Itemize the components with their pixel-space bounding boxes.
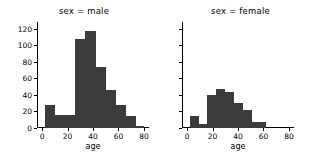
y-tick-mark <box>34 128 37 129</box>
histogram-bar <box>234 103 243 128</box>
y-tick-label: 60 <box>22 74 32 83</box>
x-tick-mark <box>118 128 119 131</box>
x-tick-label: 20 <box>208 132 218 141</box>
histogram-bar <box>106 90 116 128</box>
y-tick-mark <box>179 62 182 63</box>
y-tick-mark <box>179 78 182 79</box>
histogram-bar <box>85 31 95 128</box>
y-tick-label: 100 <box>18 41 32 50</box>
y-tick-mark <box>34 95 37 96</box>
histogram-bar <box>261 122 266 128</box>
y-tick-mark <box>34 45 37 46</box>
x-tick-label: 60 <box>259 132 269 141</box>
y-tick-mark <box>179 111 182 112</box>
x-tick-label: 20 <box>63 132 73 141</box>
histogram-bar <box>190 116 199 128</box>
histogram-bar <box>252 122 261 128</box>
x-tick-mark <box>68 128 69 131</box>
histogram-bar <box>207 95 216 128</box>
x-tick-label: 80 <box>284 132 294 141</box>
histogram-bar <box>199 124 208 128</box>
x-tick-mark <box>289 128 290 131</box>
y-tick-mark <box>34 78 37 79</box>
y-tick-mark <box>34 29 37 30</box>
histogram-bar <box>216 89 225 128</box>
histogram-bar <box>136 126 144 128</box>
y-tick-mark <box>179 45 182 46</box>
histogram-bar <box>243 110 252 128</box>
x-tick-mark <box>213 128 214 131</box>
x-tick-mark <box>187 128 188 131</box>
y-tick-label: 40 <box>22 90 32 99</box>
x-tick-label: 80 <box>139 132 149 141</box>
y-axis-spine <box>37 22 38 128</box>
histogram-bar <box>126 116 136 128</box>
y-axis-spine <box>182 22 183 128</box>
x-tick-mark <box>263 128 264 131</box>
y-tick-mark <box>34 62 37 63</box>
y-tick-label: 20 <box>22 107 32 116</box>
y-tick-mark <box>179 95 182 96</box>
y-tick-mark <box>179 29 182 30</box>
x-tick-label: 40 <box>88 132 98 141</box>
histogram-bar <box>55 115 65 128</box>
plot-area-male: 020406080100120 020406080 age <box>37 22 149 128</box>
panel-sex-female: sex = female 020406080 age <box>160 0 325 164</box>
y-tick-label: 120 <box>18 24 32 33</box>
x-tick-mark <box>42 128 43 131</box>
histogram-bar <box>225 92 234 128</box>
panel-sex-male: sex = male 020406080100120 020406080 age <box>0 0 160 164</box>
y-tick-label: 80 <box>22 57 32 66</box>
x-axis-label-male: age <box>37 142 149 151</box>
plot-area-female: 020406080 age <box>182 22 294 128</box>
histogram-bar <box>45 105 55 128</box>
x-tick-label: 60 <box>114 132 124 141</box>
y-tick-label: 0 <box>27 124 32 133</box>
x-tick-mark <box>238 128 239 131</box>
x-tick-label: 0 <box>40 132 45 141</box>
y-tick-mark <box>34 111 37 112</box>
panel-title-male: sex = male <box>4 6 164 16</box>
histogram-bar <box>65 115 75 128</box>
histogram-bar <box>116 105 126 128</box>
panel-title-female: sex = female <box>158 6 323 16</box>
x-tick-mark <box>93 128 94 131</box>
x-tick-label: 0 <box>185 132 190 141</box>
x-tick-label: 40 <box>233 132 243 141</box>
x-tick-mark <box>144 128 145 131</box>
histogram-figure: sex = male 020406080100120 020406080 age… <box>0 0 325 164</box>
x-axis-label-female: age <box>182 142 294 151</box>
y-tick-mark <box>179 128 182 129</box>
histogram-bar <box>75 39 85 128</box>
histogram-bar <box>96 67 106 128</box>
